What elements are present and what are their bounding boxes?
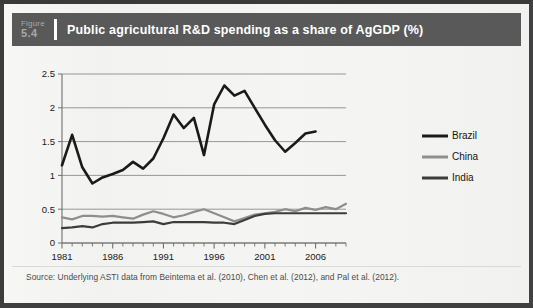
y-axis-labels: 00.511.522.5 bbox=[42, 68, 55, 248]
y-tick-label: 2 bbox=[50, 102, 55, 113]
x-axis-labels: 198119861991199620012006 bbox=[51, 251, 326, 262]
x-tick-label: 1981 bbox=[51, 251, 72, 262]
legend-label-india: India bbox=[452, 172, 474, 183]
series-line-brazil bbox=[62, 85, 316, 183]
y-tick-label: 0 bbox=[50, 237, 55, 248]
figure-container: Figure 5.4 Public agricultural R&D spend… bbox=[0, 0, 533, 308]
figure-number-block: Figure 5.4 bbox=[12, 20, 54, 40]
chart-area: 00.511.522.5 198119861991199620012006 Br… bbox=[12, 54, 521, 264]
gridlines bbox=[62, 74, 346, 243]
chart-legend: BrazilChinaIndia bbox=[422, 130, 479, 183]
figure-header-bar: Figure 5.4 Public agricultural R&D spend… bbox=[12, 13, 521, 46]
y-tick-label: 2.5 bbox=[42, 68, 55, 79]
source-note: Source: Underlying ASTI data from Beinte… bbox=[26, 272, 399, 282]
legend-label-brazil: Brazil bbox=[452, 130, 477, 141]
x-tick-label: 1986 bbox=[102, 251, 123, 262]
x-tick-label: 1996 bbox=[204, 251, 225, 262]
x-tick-label: 2006 bbox=[305, 251, 326, 262]
figure-number: 5.4 bbox=[21, 28, 54, 40]
line-chart: 00.511.522.5 198119861991199620012006 Br… bbox=[12, 54, 521, 264]
y-tick-label: 1 bbox=[50, 170, 55, 181]
y-tick-label: 0.5 bbox=[42, 204, 55, 215]
data-series bbox=[62, 85, 346, 228]
x-tick-label: 2001 bbox=[254, 251, 275, 262]
axes bbox=[62, 74, 346, 243]
y-tick-label: 1.5 bbox=[42, 136, 55, 147]
figure-title: Public agricultural R&D spending as a sh… bbox=[67, 23, 423, 37]
legend-label-china: China bbox=[452, 151, 479, 162]
x-tick-label: 1991 bbox=[153, 251, 174, 262]
source-divider bbox=[12, 266, 521, 267]
header-divider bbox=[54, 19, 57, 40]
